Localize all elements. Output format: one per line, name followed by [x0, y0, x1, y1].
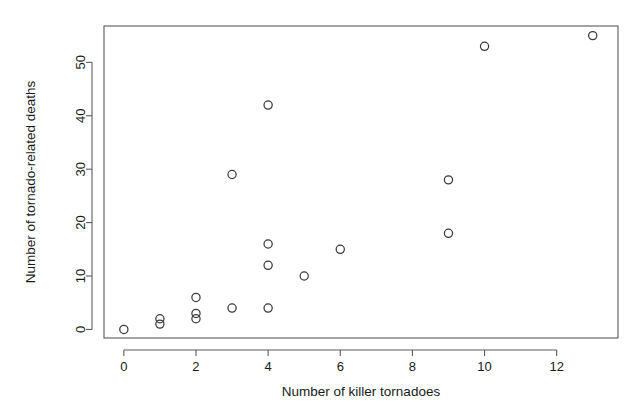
x-axis-tick-label: 6	[337, 359, 344, 374]
y-axis-tick-label: 20	[74, 215, 89, 229]
scatter-plot-figure: 024681012 01020304050 Number of killer t…	[0, 0, 640, 414]
x-axis-tick-label: 12	[549, 359, 563, 374]
y-axis-tick-label: 0	[74, 326, 89, 333]
x-axis-tick-label: 0	[120, 359, 127, 374]
y-axis-title: Number of tornado-related deaths	[23, 80, 38, 283]
x-axis-tick-label: 10	[477, 359, 491, 374]
y-axis-tick-label: 40	[74, 109, 89, 123]
plot-canvas: 024681012 01020304050 Number of killer t…	[0, 0, 640, 414]
x-axis-title: Number of killer tornadoes	[282, 384, 441, 399]
x-axis-tick-label: 2	[192, 359, 199, 374]
y-axis-tick-label: 10	[74, 269, 89, 283]
x-axis-tick-label: 4	[265, 359, 272, 374]
x-axis-tick-label: 8	[409, 359, 416, 374]
plot-background	[0, 0, 640, 414]
y-axis-tick-label: 50	[74, 55, 89, 69]
y-axis-tick-label: 30	[74, 162, 89, 176]
